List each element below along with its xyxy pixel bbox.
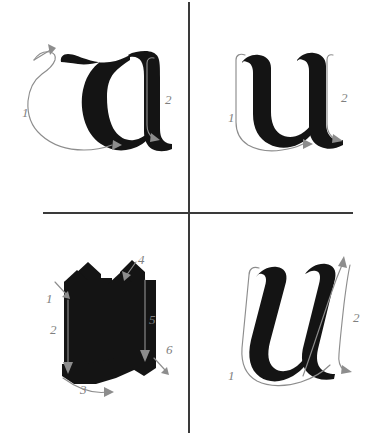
stroke-number-2: 2	[50, 322, 57, 337]
panel-top-right: 1 2	[187, 0, 375, 217]
stroke-number-2: 2	[353, 310, 360, 325]
stroke-number-1: 1	[228, 368, 235, 383]
stroke-guide-6	[154, 358, 169, 375]
panel-bottom-right: 1 2	[187, 218, 375, 435]
stroke-number-2: 2	[165, 92, 172, 107]
stroke-number-4: 4	[138, 252, 145, 267]
letter-glyph-u-gothic	[242, 53, 343, 149]
letter-glyph-u-textura	[62, 260, 156, 384]
panel-bottom-left: 1 2 3 4 5	[0, 218, 188, 435]
stroke-number-2: 2	[341, 90, 348, 105]
stroke-number-6: 6	[166, 342, 173, 357]
letter-glyph-u-italic	[249, 264, 335, 382]
stroke-number-1: 1	[228, 110, 235, 125]
stroke-order-chart: 1 2 1 2	[0, 0, 375, 435]
stroke-number-1: 1	[46, 291, 53, 306]
stroke-number-5: 5	[149, 312, 156, 327]
stroke-number-1: 1	[22, 105, 29, 120]
panel-top-left: 1 2	[0, 0, 188, 217]
letter-glyph-u-rotunda	[61, 51, 172, 151]
stroke-number-3: 3	[79, 382, 87, 397]
